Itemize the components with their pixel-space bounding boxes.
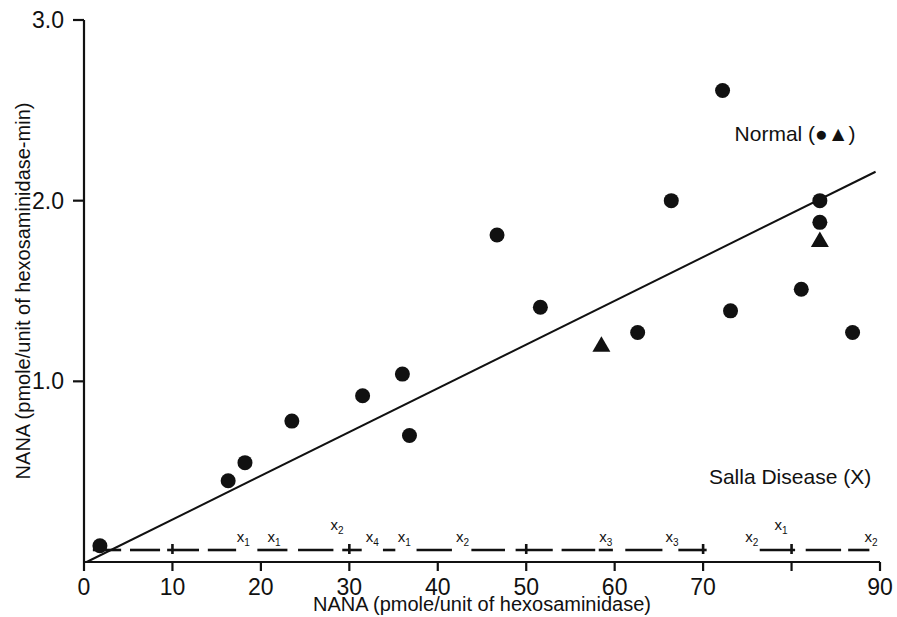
data-point-circle <box>237 455 252 470</box>
y-axis-ticks: 1.02.03.0 <box>32 7 84 394</box>
data-point-circle <box>533 300 548 315</box>
x-tick-label: 70 <box>690 574 716 600</box>
salla-point-labels: x1x1x2x4x1x2x3x3x2x1x2 <box>237 516 878 548</box>
data-point-circle <box>490 227 505 242</box>
salla-point-label: x2 <box>865 528 879 548</box>
data-point-circle <box>664 193 679 208</box>
salla-point-label: x3 <box>666 528 680 548</box>
data-point-circle <box>402 428 417 443</box>
data-point-circle <box>845 325 860 340</box>
y-tick-label: 3.0 <box>32 7 64 33</box>
data-point-circle <box>630 325 645 340</box>
x-axis-title: NANA (pmole/unit of hexosaminidase) <box>313 593 651 615</box>
salla-point-label: x1 <box>237 528 251 548</box>
data-point-triangle <box>811 231 829 246</box>
salla-point-label: x2 <box>330 516 344 536</box>
normal-triangle-markers <box>592 231 828 351</box>
normal-series-label: Normal (●▲) <box>735 122 856 145</box>
data-point-circle <box>355 388 370 403</box>
data-point-triangle <box>592 336 610 351</box>
salla-point-label: x1 <box>398 528 412 548</box>
data-point-circle <box>715 83 730 98</box>
y-tick-label: 2.0 <box>32 188 64 214</box>
regression-line <box>87 172 876 562</box>
data-point-circle <box>284 414 299 429</box>
data-point-circle <box>812 193 827 208</box>
salla-point-label: x2 <box>456 528 470 548</box>
x-tick-label: 90 <box>867 574 893 600</box>
data-point-circle <box>812 215 827 230</box>
data-point-circle <box>723 303 738 318</box>
chart-figure: 1.02.03.0 01020304050607090 x1x1x2x4x1x2… <box>0 0 897 617</box>
x-tick-label: 10 <box>160 574 186 600</box>
scatter-plot-canvas: 1.02.03.0 01020304050607090 x1x1x2x4x1x2… <box>0 0 897 617</box>
data-point-circle <box>395 367 410 382</box>
data-point-circle <box>221 473 236 488</box>
y-tick-label: 1.0 <box>32 368 64 394</box>
salla-point-label: x3 <box>599 528 613 548</box>
salla-series-label: Salla Disease (X) <box>709 465 871 488</box>
y-axis-title: NANA (pmole/unit of hexosaminidase-min) <box>12 103 34 480</box>
data-point-circle <box>92 538 107 553</box>
x-tick-label: 20 <box>248 574 274 600</box>
x-tick-label: 0 <box>78 574 91 600</box>
salla-point-label: x4 <box>366 528 380 548</box>
salla-point-label: x1 <box>774 516 788 536</box>
salla-point-label: x1 <box>268 528 282 548</box>
data-point-circle <box>794 282 809 297</box>
salla-point-label: x2 <box>745 528 759 548</box>
